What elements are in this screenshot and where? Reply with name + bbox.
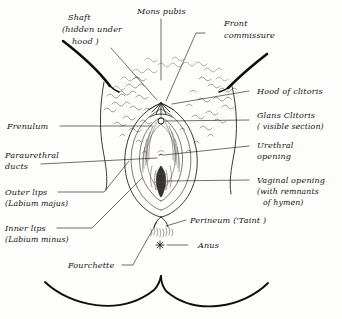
leader-perineum xyxy=(166,220,186,226)
urethral-opening-marker xyxy=(158,151,164,156)
inner-thigh-curves xyxy=(45,276,268,306)
pubic-hair-stipple xyxy=(104,57,237,153)
vaginal-opening-with-hymen xyxy=(155,166,167,197)
label-inner-lips-line2: (Labium minus) xyxy=(5,235,69,244)
label-shaft-line3: hood ) xyxy=(72,36,99,46)
label-urethral-opening-line2: opening xyxy=(257,151,291,161)
label-outer-lips-line2: (Labium majus) xyxy=(5,199,68,208)
fourchette-point xyxy=(154,217,168,227)
clitoral-hood xyxy=(148,103,174,117)
diagram-page: Mons pubis Shaft (hidden under hood ) Fr… xyxy=(0,0,342,319)
label-front-commissure-line2: commissure xyxy=(224,30,275,40)
label-inner-lips-line1: Inner lips xyxy=(4,223,46,233)
label-outer-lips-line1: Outer lips xyxy=(5,187,47,197)
label-urethral-opening-line1: Urethral xyxy=(257,140,294,150)
label-glans-clitoris-line2: ( visible section) xyxy=(257,122,324,131)
anus-starburst xyxy=(156,241,164,249)
label-shaft-line2: (hidden under xyxy=(62,24,123,34)
leader-fourchette xyxy=(122,222,157,265)
label-mons-pubis: Mons pubis xyxy=(136,6,186,16)
label-paraurethral-line2: ducts xyxy=(5,161,28,171)
leader-lines xyxy=(41,19,249,265)
label-fourchette: Fourchette xyxy=(67,260,115,270)
shaft-leader-strokes xyxy=(63,41,267,92)
leader-hood xyxy=(172,91,249,104)
label-paraurethral-line1: Paraurethral xyxy=(4,150,59,160)
leader-urethral xyxy=(164,146,249,155)
label-front-commissure-line1: Front xyxy=(223,18,248,28)
perineum-region xyxy=(151,227,173,237)
label-hood-of-clitoris: Hood of clitoris xyxy=(256,86,323,96)
label-vaginal-opening-line3: of hymen) xyxy=(263,198,303,207)
leader-outer-lips xyxy=(58,161,129,192)
label-anus: Anus xyxy=(197,240,219,250)
label-perineum: Perineum ('Taint ) xyxy=(189,215,266,225)
label-glans-clitoris-line1: Glans Clitoris xyxy=(257,110,315,120)
glans-clitoris-marker xyxy=(158,118,164,124)
label-shaft-line1: Shaft xyxy=(68,12,91,22)
label-vaginal-opening-line2: (with remnants xyxy=(257,187,319,196)
leader-vaginal xyxy=(167,180,249,181)
label-vaginal-opening-line1: Vaginal opening xyxy=(257,175,325,185)
anatomy-diagram: Mons pubis Shaft (hidden under hood ) Fr… xyxy=(0,0,342,319)
label-frenulum: Frenulum xyxy=(6,121,49,131)
leader-front-commissure xyxy=(166,33,205,101)
